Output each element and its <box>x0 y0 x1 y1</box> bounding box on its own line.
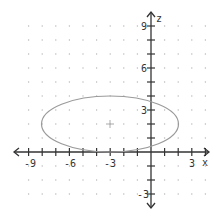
x-axis-label: x <box>202 157 208 168</box>
y-tick-label: 6 <box>141 63 147 74</box>
center-marker <box>106 120 114 128</box>
x-tick-label: -3 <box>104 158 116 169</box>
y-tick-label: 3 <box>141 105 147 116</box>
y-axis-label: z <box>156 13 162 24</box>
y-tick-label: 9 <box>141 21 147 32</box>
graph-canvas: -9 -6 -3 3 9 6 3 -3 x z <box>0 0 222 217</box>
x-tick-label: -6 <box>64 158 76 169</box>
dot-grid <box>28 25 206 194</box>
y-tick-label: -3 <box>137 189 149 200</box>
x-tick-label: -9 <box>24 158 36 169</box>
x-tick-label: 3 <box>189 158 195 169</box>
